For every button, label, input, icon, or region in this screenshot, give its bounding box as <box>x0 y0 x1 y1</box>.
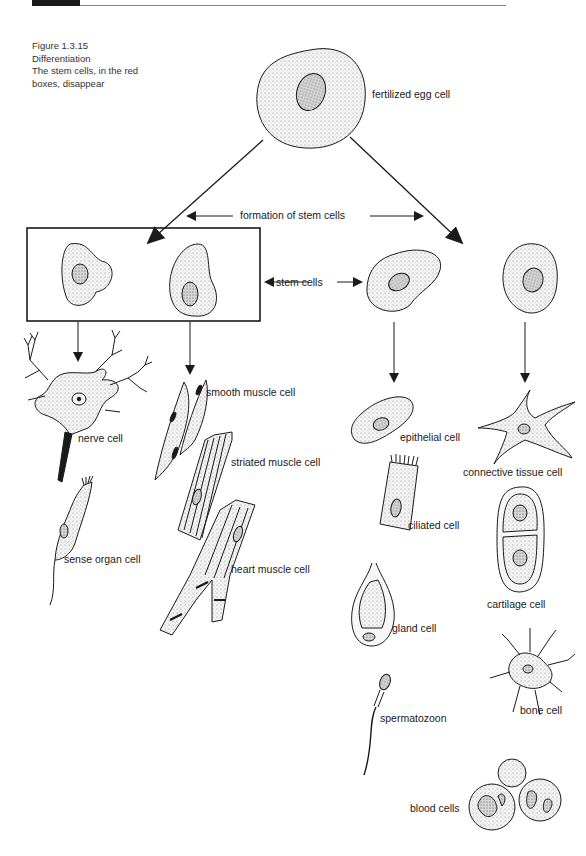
label-connective-tissue: connective tissue cell <box>463 466 562 478</box>
sense-organ-cell <box>50 476 93 605</box>
label-stem-cells: stem cells <box>276 276 323 288</box>
blood-cells <box>469 759 561 830</box>
label-epithelial: epithelial cell <box>400 431 460 443</box>
nerve-cell <box>24 330 152 482</box>
label-spermatozoon: spermatozoon <box>380 712 447 724</box>
label-sense-organ: sense organ cell <box>64 553 140 565</box>
differentiation-diagram <box>0 0 586 856</box>
label-ciliated: ciliated cell <box>408 519 459 531</box>
cartilage-cell <box>497 487 544 592</box>
label-formation: formation of stem cells <box>240 209 345 221</box>
stem-cell-2 <box>170 244 217 316</box>
stem-cell-4 <box>503 244 557 313</box>
fertilized-egg-cell <box>257 49 365 149</box>
label-heart-muscle: heart muscle cell <box>231 563 310 575</box>
label-fertilized-egg: fertilized egg cell <box>372 88 450 100</box>
label-striated-muscle: striated muscle cell <box>231 456 320 468</box>
label-blood: blood cells <box>410 802 460 814</box>
label-smooth-muscle: smooth muscle cell <box>206 386 295 398</box>
stem-cell-3 <box>367 250 441 311</box>
stem-cell-1 <box>62 243 112 305</box>
gland-cell <box>352 563 395 646</box>
bone-cell <box>490 628 575 715</box>
arrow-to-right-stem <box>350 137 462 243</box>
connective-tissue-cell <box>478 390 575 464</box>
label-bone: bone cell <box>520 704 562 716</box>
label-nerve: nerve cell <box>78 432 123 444</box>
label-cartilage: cartilage cell <box>487 598 545 610</box>
label-gland: gland cell <box>392 622 436 634</box>
